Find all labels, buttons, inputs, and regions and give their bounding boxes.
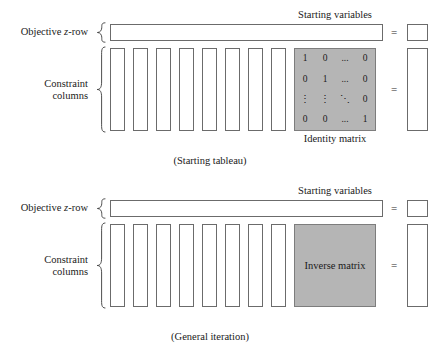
rhs-objective-box	[407, 24, 428, 41]
starting-variables-annotation: Starting variables	[294, 185, 376, 197]
equals-sign-objective: =	[391, 27, 397, 38]
starting-tableau-figure: Starting variables Objective z-row Const…	[0, 0, 437, 176]
rhs-constraint-box	[407, 48, 428, 131]
constraint-columns-brace	[92, 46, 106, 133]
constraint-columns-label: Constraint columns	[0, 78, 88, 102]
identity-matrix-caption: Identity matrix	[284, 133, 386, 145]
identity-matrix-block: 1 0 ... 0 0 1 ... 0 ⋮ ⋮ ⋱ 0 0 0 ... 1	[294, 48, 376, 131]
objective-label-prefix: Objective	[21, 202, 64, 213]
inverse-matrix-block: Inverse matrix	[294, 224, 376, 307]
objective-z-row-box	[110, 24, 383, 41]
equals-sign-constraints: =	[391, 84, 397, 95]
objective-row-brace	[92, 198, 106, 219]
matrix-cell: ...	[341, 54, 348, 64]
constraint-column	[202, 224, 217, 307]
matrix-cell: 0	[303, 75, 308, 85]
panel-caption-starting-tableau: (Starting tableau)	[110, 155, 310, 166]
matrix-cell: 1	[323, 75, 328, 85]
constraint-column	[133, 224, 148, 307]
matrix-cell: 0	[303, 115, 308, 125]
objective-row-brace	[92, 22, 106, 43]
constraint-label-line1: Constraint	[0, 78, 88, 90]
constraint-column	[179, 224, 194, 307]
constraint-column	[110, 48, 125, 131]
objective-label-suffix: -row	[68, 202, 88, 213]
equals-sign-objective: =	[391, 203, 397, 214]
starting-variables-annotation: Starting variables	[294, 9, 376, 21]
constraint-column	[156, 224, 171, 307]
matrix-cell: 0	[363, 54, 368, 64]
matrix-cell: 1	[363, 115, 368, 125]
objective-z-row-label: Objective z-row	[0, 26, 88, 38]
identity-matrix-grid: 1 0 ... 0 0 1 ... 0 ⋮ ⋮ ⋱ 0 0 0 ... 1	[295, 49, 375, 130]
equals-sign-constraints: =	[391, 260, 397, 271]
inverse-matrix-label: Inverse matrix	[295, 225, 375, 306]
matrix-cell: 0	[323, 54, 328, 64]
matrix-cell: 0	[363, 75, 368, 85]
constraint-column	[248, 224, 263, 307]
panel-caption-general-iteration: (General iteration)	[110, 331, 310, 342]
constraint-column	[133, 48, 148, 131]
objective-z-row-box	[110, 200, 383, 217]
rhs-constraint-box	[407, 224, 428, 307]
matrix-cell: ...	[341, 115, 348, 125]
matrix-cell: ⋮	[300, 95, 310, 105]
matrix-cell: 0	[323, 115, 328, 125]
matrix-cell: ⋱	[340, 95, 350, 105]
constraint-label-line1: Constraint	[0, 254, 88, 266]
objective-label-prefix: Objective	[21, 26, 64, 37]
constraint-column	[271, 224, 286, 307]
constraint-column	[156, 48, 171, 131]
constraint-label-line2: columns	[0, 90, 88, 102]
constraint-column	[225, 48, 240, 131]
constraint-column	[179, 48, 194, 131]
constraint-column	[248, 48, 263, 131]
constraint-columns-brace	[92, 222, 106, 309]
constraint-column	[110, 224, 125, 307]
objective-label-suffix: -row	[68, 26, 88, 37]
matrix-cell: 0	[363, 95, 368, 105]
matrix-cell: ⋮	[320, 95, 330, 105]
general-iteration-figure: Starting variables Objective z-row Const…	[0, 176, 437, 352]
constraint-columns-label: Constraint columns	[0, 254, 88, 278]
matrix-cell: ...	[341, 75, 348, 85]
constraint-label-line2: columns	[0, 266, 88, 278]
matrix-cell: 1	[303, 54, 308, 64]
constraint-column	[271, 48, 286, 131]
constraint-column	[202, 48, 217, 131]
objective-z-row-label: Objective z-row	[0, 202, 88, 214]
constraint-column	[225, 224, 240, 307]
rhs-objective-box	[407, 200, 428, 217]
